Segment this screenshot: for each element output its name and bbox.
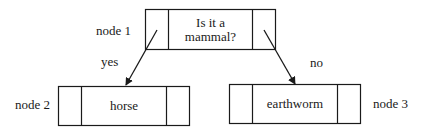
node-3-label: node 3	[373, 97, 408, 111]
node-1-question-line1: Is it a	[196, 16, 225, 30]
edge-yes-label: yes	[101, 55, 118, 69]
decision-tree-diagram: Is it a mammal? node 1 yes no horse node…	[0, 0, 426, 136]
node-3-answer: earthworm	[253, 85, 337, 123]
node-2-label: node 2	[15, 98, 50, 112]
edge-no-label: no	[310, 56, 323, 70]
node-1-question-line2: mammal?	[185, 30, 236, 44]
node-2-answer: horse	[82, 87, 166, 125]
edge-no-arrow	[264, 30, 295, 84]
node-1-label: node 1	[96, 24, 131, 38]
edge-yes-arrow	[126, 30, 157, 85]
node-1-question: Is it a mammal?	[169, 11, 252, 49]
